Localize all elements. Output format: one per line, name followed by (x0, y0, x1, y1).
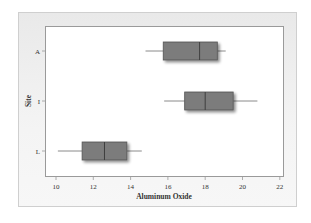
x-tick-label: 22 (276, 183, 284, 191)
x-tick-label: 18 (202, 183, 210, 191)
box-A (146, 42, 226, 60)
y-tick-label: A (35, 48, 40, 56)
y-axis-label: Site (24, 94, 33, 107)
x-tick-label: 20 (239, 183, 247, 191)
iqr-box (163, 42, 217, 60)
boxplot-chart: 10121416182022 AIL Aluminum Oxide Site (0, 0, 311, 223)
iqr-box (185, 92, 233, 110)
box-I (164, 92, 257, 110)
x-axis-label: Aluminum Oxide (136, 192, 192, 201)
x-tick-label: 10 (53, 183, 61, 191)
x-tick-label: 12 (90, 183, 98, 191)
x-tick-label: 14 (127, 183, 135, 191)
box-L (58, 142, 142, 160)
y-tick-label: I (38, 98, 41, 106)
y-tick-label: L (36, 148, 40, 156)
x-tick-label: 16 (164, 183, 172, 191)
